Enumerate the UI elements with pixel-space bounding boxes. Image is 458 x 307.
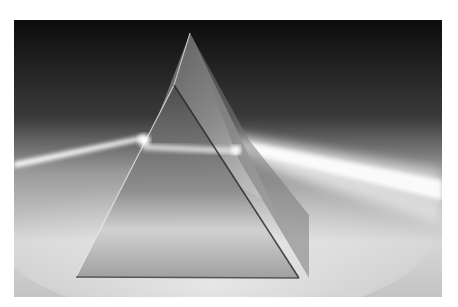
entry-flare: [138, 134, 150, 146]
prism-photo: [14, 20, 442, 297]
prism-scene: [14, 20, 442, 297]
exit-flare: [231, 145, 241, 155]
prism-base-edge: [76, 277, 299, 278]
